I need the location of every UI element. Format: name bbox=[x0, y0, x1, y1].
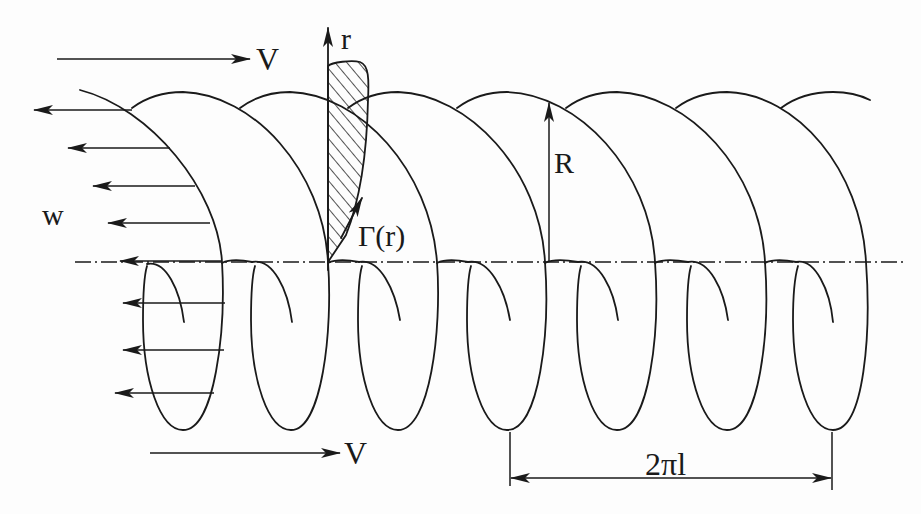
circulation-label: Γ(r) bbox=[358, 221, 405, 251]
helix-bridge-3 bbox=[437, 260, 510, 320]
helical-wake-diagram: V V w r R Γ(r) 2πl bbox=[0, 0, 921, 514]
radial-coordinate-label: r bbox=[341, 24, 351, 54]
helix-bridge-2 bbox=[328, 260, 400, 320]
induced-velocity-arrows bbox=[34, 110, 225, 393]
pitch-label: 2πl bbox=[645, 448, 686, 480]
induced-velocity-label: w bbox=[42, 200, 64, 230]
helix-hook-0 bbox=[147, 264, 184, 322]
helix-vortex-sheet bbox=[80, 90, 870, 430]
helix-final-hump bbox=[781, 92, 870, 108]
freestream-label-bottom: V bbox=[344, 437, 367, 469]
helix-front-arc-0 bbox=[80, 90, 223, 430]
helix-bridge-4 bbox=[545, 260, 618, 320]
helix-bridge-1 bbox=[222, 260, 292, 322]
helix-bridge-6 bbox=[765, 260, 833, 322]
diagram-canvas bbox=[0, 0, 921, 514]
helix-bridge-5 bbox=[655, 260, 728, 320]
freestream-label-top: V bbox=[256, 43, 279, 75]
wake-radius-label: R bbox=[554, 148, 574, 178]
